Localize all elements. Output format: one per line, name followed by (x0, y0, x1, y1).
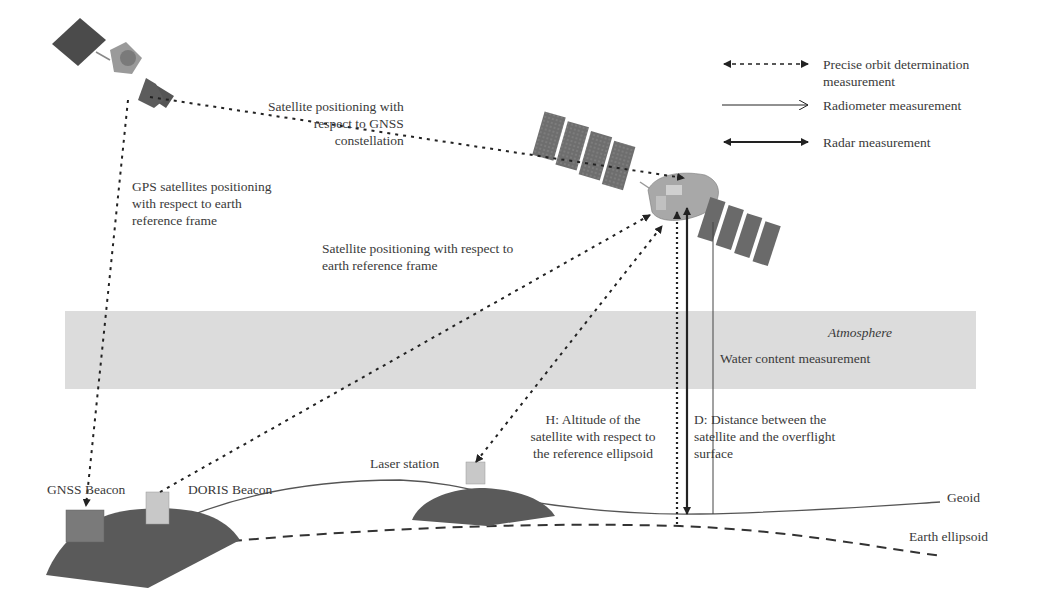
laser-station (466, 462, 485, 484)
altitude-h-label: H: Altitude of the satellite with respec… (508, 411, 678, 462)
legend-label-radiometer: Radiometer measurement (823, 97, 961, 114)
legend-label-orbit: Precise orbit determination measurement (823, 56, 969, 90)
atmosphere-title: Atmosphere (820, 324, 900, 341)
laser-station-label: Laser station (370, 455, 439, 472)
gnss-beacon (66, 510, 104, 542)
earth-ellipsoid-label: Earth ellipsoid (909, 528, 988, 545)
gps-to-gnss-beacon-link (86, 100, 128, 506)
geoid-line (180, 480, 940, 520)
gnss-constellation-label: Satellite positioning with respect to GN… (268, 98, 404, 149)
doris-beacon (146, 492, 169, 524)
altimetry-satellite-icon (530, 112, 783, 267)
legend (722, 64, 808, 142)
gps-positioning-label: GPS satellites positioning with respect … (132, 178, 272, 229)
distance-d-label: D: Distance between the satellite and th… (694, 411, 835, 462)
laser-station-landmass (412, 488, 555, 526)
satellite-altimetry-diagram: Satellite positioning with respect to GN… (0, 0, 1051, 607)
diagram-canvas (0, 0, 1051, 607)
geoid-label: Geoid (947, 489, 980, 506)
gps-satellite-icon (52, 18, 174, 108)
water-content-label: Water content measurement (720, 350, 870, 367)
earth-ellipsoid-line (232, 525, 942, 556)
satellite-positioning-earth-label: Satellite positioning with respect to ea… (322, 240, 513, 274)
gnss-beacon-label: GNSS Beacon (47, 481, 125, 498)
doris-beacon-label: DORIS Beacon (188, 481, 272, 498)
legend-label-radar: Radar measurement (823, 134, 931, 151)
